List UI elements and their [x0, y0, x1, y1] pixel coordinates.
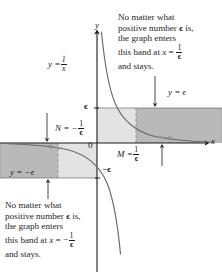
lower-band-label: y = −ϵ [10, 167, 34, 177]
marker-N-denominator: ϵ [78, 128, 84, 137]
callout-bl-line3: the graph enters [5, 221, 63, 231]
callout-tr-line5: and stays. [118, 61, 154, 71]
x-axis-label: x [211, 136, 215, 146]
callout-tr-line1: No matter what [118, 12, 175, 22]
curve-label-lhs: y = [48, 59, 60, 69]
marker-M-lhs: M = [117, 149, 133, 159]
curve-label-denominator: x [61, 64, 67, 73]
callout-tr-line2-b: is, [183, 23, 194, 33]
callout-bl-fraction: 1ϵ [69, 232, 75, 249]
upper-band-label-text: y = ϵ [168, 87, 186, 97]
marker-M-fraction: 1ϵ [133, 146, 139, 163]
callout-bl-line2-b: is, [70, 211, 81, 221]
tick-label-epsilon-negative: −ϵ [102, 164, 111, 174]
marker-label-M: M =1ϵ [117, 146, 140, 163]
callout-tr-fraction: 1ϵ [176, 44, 182, 61]
tick-label-epsilon-positive: ϵ [84, 101, 88, 111]
y-axis-label: y [95, 20, 99, 30]
lower-band-label-text: y = −ϵ [10, 167, 34, 177]
callout-tr-line3: the graph enters [118, 33, 176, 43]
curve-label-numerator: 1 [61, 56, 67, 64]
callout-tr-line2-a: positive number [118, 23, 179, 33]
figure-container: y =1x y x 0 ϵ −ϵ y = ϵ y = −ϵ N = −1ϵ M … [0, 0, 222, 272]
curve-label-fraction: 1x [61, 56, 67, 73]
callout-bl-line4-a: this band at [5, 235, 49, 245]
upper-band-label: y = ϵ [168, 87, 186, 97]
callout-bl-numerator: 1 [69, 232, 75, 240]
marker-N-fraction: 1ϵ [78, 120, 84, 137]
callout-bl-line4-eq: = − [53, 235, 68, 245]
callout-bl-denominator: ϵ [69, 240, 75, 249]
callout-tr-numerator: 1 [176, 44, 182, 52]
curve-label: y =1x [48, 56, 67, 73]
callout-tr-denominator: ϵ [176, 52, 182, 61]
callout-tr-line4-a: this band at [118, 47, 162, 57]
callout-bottom-left: No matter what positive number ϵ is, the… [5, 200, 113, 260]
marker-N-lhs: N = − [55, 123, 78, 133]
origin-label: 0 [88, 140, 93, 150]
marker-label-N: N = −1ϵ [55, 120, 85, 137]
callout-top-right: No matter what positive number ϵ is, the… [118, 12, 218, 72]
callout-bl-line5: and stays. [5, 249, 41, 259]
marker-N-numerator: 1 [78, 120, 84, 128]
marker-M-numerator: 1 [133, 146, 139, 154]
marker-M-denominator: ϵ [133, 154, 139, 163]
upper-entry-strip [97, 108, 136, 143]
callout-bl-line1: No matter what [5, 200, 62, 210]
callout-bl-line2-a: positive number [5, 211, 66, 221]
callout-tr-line4-eq: = [166, 47, 176, 57]
